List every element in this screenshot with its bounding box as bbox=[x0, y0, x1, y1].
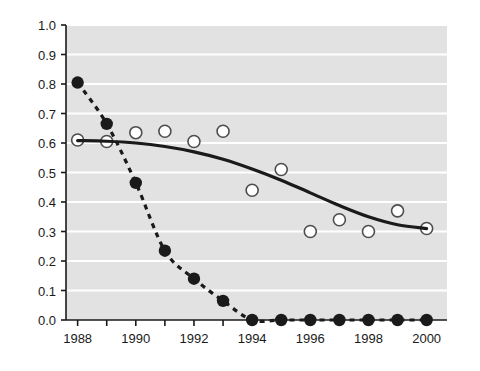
data-point-filled bbox=[130, 177, 142, 189]
data-point-filled bbox=[333, 314, 345, 326]
y-tick-label: 0.0 bbox=[38, 313, 56, 328]
x-tick-label: 1992 bbox=[180, 331, 209, 346]
x-tick-label: 2000 bbox=[412, 331, 441, 346]
x-tick-label: 1996 bbox=[296, 331, 325, 346]
scatter-line-chart: 0.00.10.20.30.40.50.60.70.80.91.0 198819… bbox=[0, 0, 480, 371]
data-point-filled bbox=[304, 314, 316, 326]
data-point-open bbox=[246, 184, 258, 196]
data-point-filled bbox=[362, 314, 374, 326]
data-point-filled bbox=[188, 273, 200, 285]
data-point-filled bbox=[420, 314, 432, 326]
y-tick-label: 0.9 bbox=[38, 48, 56, 63]
data-point-filled bbox=[275, 314, 287, 326]
data-point-filled bbox=[217, 295, 229, 307]
x-tick-label: 1988 bbox=[63, 331, 92, 346]
data-point-open bbox=[130, 127, 142, 139]
data-point-open bbox=[159, 125, 171, 137]
data-point-open bbox=[304, 226, 316, 238]
y-tick-label: 0.7 bbox=[38, 107, 56, 122]
data-point-open bbox=[333, 214, 345, 226]
data-point-filled bbox=[159, 244, 171, 256]
data-point-filled bbox=[246, 314, 258, 326]
data-point-filled bbox=[71, 76, 83, 88]
x-tick-label: 1994 bbox=[238, 331, 267, 346]
y-tick-label: 0.5 bbox=[38, 166, 56, 181]
data-point-open bbox=[217, 125, 229, 137]
x-tick-label: 1990 bbox=[121, 331, 150, 346]
data-point-open bbox=[392, 205, 404, 217]
data-point-open bbox=[188, 136, 200, 148]
y-tick-label: 0.6 bbox=[38, 136, 56, 151]
x-tick-label: 1998 bbox=[354, 331, 383, 346]
y-tick-label: 0.8 bbox=[38, 77, 56, 92]
y-tick-label: 0.1 bbox=[38, 284, 56, 299]
y-tick-label: 0.4 bbox=[38, 195, 56, 210]
data-point-filled bbox=[391, 314, 403, 326]
data-point-open bbox=[275, 164, 287, 176]
data-point-open bbox=[362, 226, 374, 238]
y-tick-label: 1.0 bbox=[38, 18, 56, 33]
y-tick-label: 0.2 bbox=[38, 254, 56, 269]
chart-container: 0.00.10.20.30.40.50.60.70.80.91.0 198819… bbox=[0, 0, 480, 371]
data-point-filled bbox=[101, 118, 113, 130]
y-tick-label: 0.3 bbox=[38, 225, 56, 240]
